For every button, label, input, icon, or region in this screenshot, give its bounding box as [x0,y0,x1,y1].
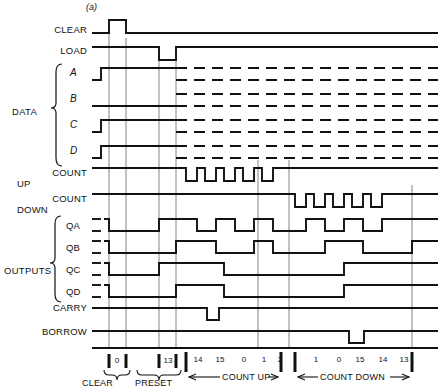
axis-value-up-0: 14 [190,355,206,364]
axis-value-down-3: 14 [375,355,391,364]
axis-value-up-3: 1 [256,355,272,364]
axis-value-down-4: 13 [396,355,412,364]
waveform-data-a [92,68,176,80]
axis-value-preset: 13 [160,356,176,365]
waveform-data-c [92,120,176,132]
axis-value-up-1: 15 [212,355,228,364]
waveform-count-up [92,168,438,181]
bracket-label-preset: PRESET [135,378,172,388]
waveform-qb [104,241,438,253]
brace-outputs [50,216,61,302]
waveform-qd [104,285,438,297]
axis-value-clear: 0 [110,356,124,365]
waveform-clear [92,20,438,33]
waveform-load [92,47,438,60]
waveform-qc [104,263,438,275]
timing-diagram-figure: (a) CLEAR LOAD DATA A B C D COUNT UP COU… [0,0,442,392]
axis-value-up-2: 0 [236,355,252,364]
waveform-carry [92,308,438,320]
bracket-label-clear: CLEAR [82,378,113,388]
axis-value-down-0: 1 [308,355,324,364]
waveform-count-down [92,194,438,207]
waveform-qa [104,219,438,231]
axis-value-down-2: 15 [352,355,368,364]
axis-value-down-1: 0 [331,355,347,364]
waveform-borrow [92,331,438,343]
bracket-label-count-down: COUNT DOWN [320,372,385,382]
waveform-canvas [0,0,442,392]
bracket-label-count-up: COUNT UP [222,372,270,382]
axis-value-up-4: 2 [272,355,288,364]
brace-data [51,64,62,166]
waveform-data-d [92,146,176,158]
